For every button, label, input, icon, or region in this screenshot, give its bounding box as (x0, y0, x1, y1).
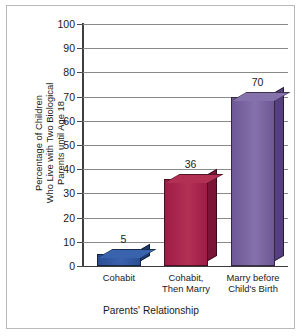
y-axis-tick (77, 121, 83, 122)
x-axis-title: Parents' Relationship (0, 305, 302, 316)
y-axis-tick-label: 90 (35, 43, 75, 53)
y-axis-tick-labels: 1009080706050403020100 (31, 0, 75, 300)
gridline (83, 48, 288, 49)
bar-side-face (208, 169, 217, 261)
chart-figure: Percentage of Children Who Live with Two… (0, 0, 302, 336)
y-axis-tick (77, 145, 83, 146)
y-axis-tick (77, 266, 83, 267)
bar-2 (164, 179, 208, 266)
plot-area (83, 24, 288, 266)
bar-front-face (164, 179, 208, 266)
x-axis-category-label-line: Child's Birth (203, 283, 302, 294)
y-axis-tick (77, 218, 83, 219)
bar-value-label: 5 (97, 234, 150, 245)
y-axis-tick (77, 48, 83, 49)
x-axis-category-label: Marry beforeChild's Birth (203, 272, 302, 294)
y-axis-tick-label: 0 (35, 261, 75, 271)
bar-front-face (231, 97, 275, 266)
y-axis-tick-label: 10 (35, 237, 75, 247)
bar-value-label: 70 (231, 77, 284, 88)
gridline (83, 24, 288, 25)
x-axis-category-label-line: Marry before (203, 272, 302, 283)
bar-value-label: 36 (164, 159, 217, 170)
y-axis-tick (77, 193, 83, 194)
y-axis-tick (77, 24, 83, 25)
y-axis-tick-label: 20 (35, 213, 75, 223)
gridline (83, 72, 288, 73)
bar-3 (231, 97, 275, 266)
x-axis-baseline (83, 266, 288, 267)
y-axis-tick-label: 100 (35, 19, 75, 29)
y-axis-tick (77, 97, 83, 98)
y-axis-tick-label: 50 (35, 140, 75, 150)
y-axis-tick (77, 169, 83, 170)
y-axis-tick-label: 30 (35, 188, 75, 198)
y-axis-tick-label: 40 (35, 164, 75, 174)
y-axis-tick-label: 70 (35, 92, 75, 102)
y-axis-tick-label: 60 (35, 116, 75, 126)
y-axis-tick (77, 242, 83, 243)
y-axis-tick-label: 80 (35, 67, 75, 77)
bar-1 (97, 254, 141, 266)
bar-side-face (275, 86, 284, 261)
y-axis-tick (77, 72, 83, 73)
